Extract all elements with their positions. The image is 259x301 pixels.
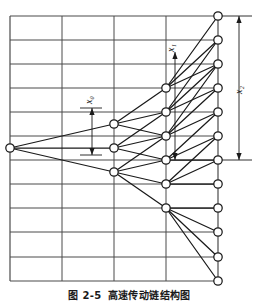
tree-node [162,156,170,164]
tree-node [214,228,222,236]
dimension-label-x1: x₁ [165,44,176,53]
tree-node [214,108,222,116]
tree-node [214,132,222,140]
tree-node [214,253,222,261]
dimension-label-x2: x₂ [233,86,244,95]
tree-edge [166,160,218,184]
arrowhead-down [236,153,241,160]
tree-node [110,144,118,152]
tree-node [214,156,222,164]
figure-caption-number: 图 2-5 [68,290,102,301]
figure-caption: 图 2-5高速传动链结构图 [0,287,259,301]
tree-node [162,204,170,212]
tree-node [214,180,222,188]
tree-node [214,84,222,92]
tree-node [162,132,170,140]
tree-node [6,144,14,152]
dimension-label-x0: x₀ [83,96,94,105]
arrowhead-up [172,52,177,59]
tree-node [214,36,222,44]
tree-node [214,277,222,285]
tree-node [162,84,170,92]
tree-node [110,120,118,128]
tree-edge [166,64,218,136]
figure-container: x₀x₁x₂ 图 2-5高速传动链结构图 [0,0,259,301]
tree-node [214,12,222,20]
tree-node [162,108,170,116]
arrowhead-up [236,16,241,23]
tree-node [110,168,118,176]
dimension-label-layer: x₀x₁x₂ [83,44,244,105]
tree-node [214,60,222,68]
tree-node [214,204,222,212]
arrowhead-down [89,148,94,155]
tree-node [162,180,170,188]
tree-edge [166,208,218,281]
figure-caption-title: 高速传动链结构图 [108,290,191,301]
tree-edge [166,112,218,136]
trellis-diagram: x₀x₁x₂ [0,0,259,301]
